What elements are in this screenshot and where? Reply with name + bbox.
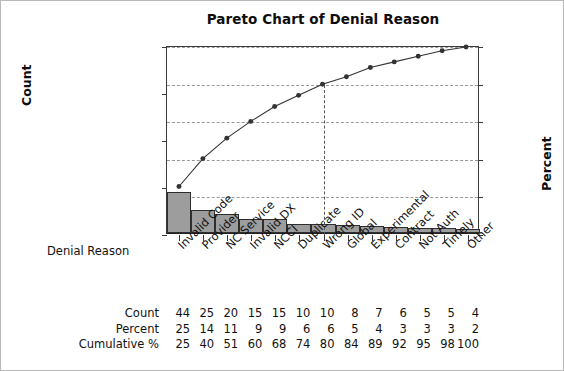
y-tick-mark-right — [478, 47, 483, 48]
table-row: Percent2514119966543332 — [1, 322, 564, 338]
table-row-label: Cumulative % — [1, 337, 159, 351]
table-row-label: Count — [1, 306, 159, 320]
table-cell: 4 — [445, 306, 479, 320]
y-tick-mark-left — [162, 94, 167, 95]
y-axis-label-count: Count — [19, 64, 34, 106]
table-row: Count44252015151010876554 — [1, 306, 564, 322]
pareto-chart-canvas: Pareto Chart of Denial Reason Count Perc… — [0, 0, 564, 371]
x-axis-label: Denial Reason — [47, 244, 129, 258]
table-row-label: Percent — [1, 322, 159, 336]
y-tick-mark-right — [478, 160, 483, 161]
chart-title: Pareto Chart of Denial Reason — [166, 11, 480, 27]
y-tick-mark-right — [478, 85, 483, 86]
table-cell: 2 — [445, 322, 479, 336]
table-cell: 100 — [445, 337, 479, 351]
y-tick-mark-left — [162, 141, 167, 142]
y-tick-mark-right — [478, 197, 483, 198]
y-axis-label-percent: Percent — [539, 136, 554, 191]
y-tick-mark-left — [162, 47, 167, 48]
data-table: Count44252015151010876554Percent25141199… — [1, 306, 564, 353]
y-tick-mark-left — [162, 235, 167, 236]
y-tick-mark-right — [478, 122, 483, 123]
table-row: Cumulative %254051606874808489929598100 — [1, 337, 564, 353]
y-tick-mark-left — [162, 188, 167, 189]
